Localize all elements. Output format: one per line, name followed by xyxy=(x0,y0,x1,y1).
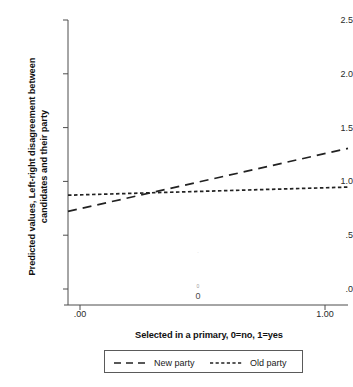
series-line-old-party xyxy=(68,187,348,195)
legend-label-old-party: Old party xyxy=(250,358,287,368)
legend-swatch-old-party xyxy=(209,358,243,368)
y-tick-marks xyxy=(63,20,68,289)
chart-legend: New party Old party xyxy=(104,350,303,373)
scan-artifact-dot: · xyxy=(191,249,205,255)
x-tick-marks xyxy=(80,305,325,310)
scan-artifact-zero-small: 0 xyxy=(191,283,205,289)
legend-entry-old-party: Old party xyxy=(209,351,287,374)
plot-canvas xyxy=(0,0,353,387)
legend-swatch-new-party xyxy=(113,358,147,368)
x-axis-title: Selected in a primary, 0=no, 1=yes xyxy=(68,330,350,340)
chart-figure: Predicted values, Left-right disagreemen… xyxy=(0,0,353,387)
legend-label-new-party: New party xyxy=(154,358,195,368)
scan-artifact-zero: 0 xyxy=(191,291,205,301)
legend-entry-new-party: New party xyxy=(113,351,195,374)
series-line-new-party xyxy=(68,148,348,211)
